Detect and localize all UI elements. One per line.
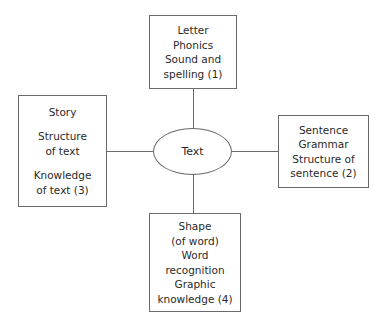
sentence-grammar-box: Sentence Grammar Structure of sentence (… [278,115,369,188]
right-line-2: Grammar [298,137,348,152]
text-knowledge-diagram: Letter Phonics Sound and spelling (1) St… [0,0,381,327]
left-line-1: Story [49,105,77,120]
right-line-3: Structure of [292,152,354,167]
bottom-line-1: Shape [179,219,212,234]
top-line-4: spelling (1) [164,67,223,82]
top-line-3: Sound and [165,52,221,67]
story-box: Story Structure of text Knowledge of tex… [18,95,107,207]
text-ellipse: Text [153,128,232,175]
bottom-line-3: Word [182,248,209,263]
right-line-1: Sentence [299,123,348,138]
bottom-line-2: (of word) [171,234,218,249]
left-line-4: Knowledge [34,168,92,183]
bottom-line-5: Graphic [175,277,216,292]
left-line-3: of text [45,144,79,159]
right-line-4: sentence (2) [290,166,356,181]
letter-phonics-box: Letter Phonics Sound and spelling (1) [149,15,237,89]
connector-left [106,151,154,152]
left-line-5: of text (3) [36,183,88,198]
connector-right [231,151,279,152]
center-label: Text [181,145,203,158]
left-line-2: Structure [38,129,87,144]
connector-top [193,88,194,129]
shape-word-box: Shape (of word) Word recognition Graphic… [149,213,241,312]
bottom-line-4: recognition [165,263,224,278]
connector-bottom [193,174,194,213]
top-line-2: Phonics [173,38,213,53]
bottom-line-6: knowledge (4) [157,292,232,307]
top-line-1: Letter [177,23,208,38]
